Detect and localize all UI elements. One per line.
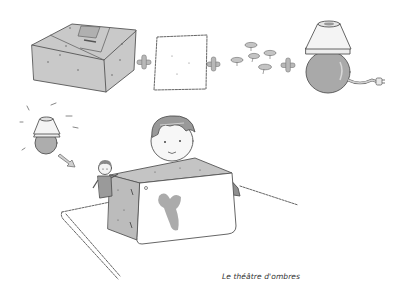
plus-icon (207, 57, 220, 71)
lamp-icon (306, 21, 385, 93)
paper-sheet-icon (154, 35, 207, 90)
arrow-icon (58, 154, 75, 167)
push-pins-icon (231, 42, 276, 74)
glowing-lamp-icon (20, 103, 78, 154)
plus-icon (137, 55, 151, 69)
caption: Le théâtre d'ombres (222, 272, 300, 281)
shadow-theatre-illustration (0, 0, 410, 304)
cardboard-box-icon (32, 24, 136, 92)
box-theatre (108, 158, 236, 244)
plus-icon (281, 58, 295, 72)
